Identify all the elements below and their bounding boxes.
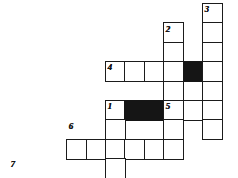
- crossword-cell[interactable]: [86, 139, 107, 160]
- clue-number: 7: [10, 160, 15, 169]
- crossword-cell[interactable]: [105, 61, 126, 82]
- clue-number: 6: [69, 122, 74, 131]
- crossword-cell[interactable]: [202, 42, 223, 63]
- crossword-cell[interactable]: [202, 61, 223, 82]
- crossword-cell[interactable]: [105, 139, 126, 160]
- crossword-cell[interactable]: [105, 100, 126, 121]
- crossword-cell[interactable]: [183, 100, 204, 121]
- crossword-cell[interactable]: [163, 100, 184, 121]
- crossword-cell[interactable]: [163, 22, 184, 43]
- crossword-grid: 3241567: [0, 0, 238, 178]
- crossword-cell[interactable]: [163, 139, 184, 160]
- crossword-cell[interactable]: [163, 81, 184, 102]
- crossword-cell[interactable]: [105, 158, 126, 178]
- crossword-cell[interactable]: [124, 139, 145, 160]
- crossword-cell[interactable]: [202, 22, 223, 43]
- blocked-cell: [144, 100, 165, 121]
- crossword-cell[interactable]: [144, 139, 165, 160]
- crossword-cell[interactable]: [202, 100, 223, 121]
- crossword-cell[interactable]: [202, 119, 223, 140]
- blocked-cell: [183, 61, 204, 82]
- crossword-cell[interactable]: [202, 3, 223, 24]
- blocked-cell: [124, 100, 145, 121]
- crossword-cell[interactable]: [66, 139, 87, 160]
- crossword-cell[interactable]: [202, 81, 223, 102]
- crossword-cell[interactable]: [163, 61, 184, 82]
- crossword-cell[interactable]: [163, 42, 184, 63]
- crossword-cell[interactable]: [105, 119, 126, 140]
- crossword-cell[interactable]: [124, 61, 145, 82]
- crossword-cell[interactable]: [144, 61, 165, 82]
- crossword-cell[interactable]: [163, 119, 184, 140]
